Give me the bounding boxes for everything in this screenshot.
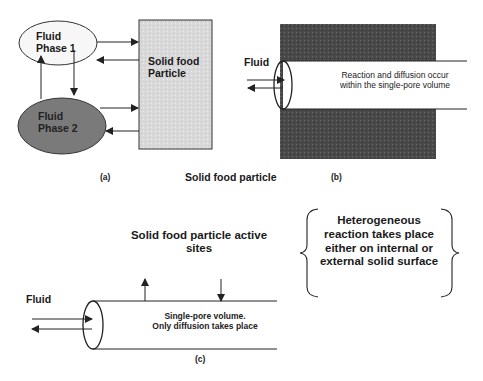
pore-mouth-ellipse-c xyxy=(83,301,103,349)
fluid-label-b: Fluid xyxy=(244,56,269,68)
panel-c-label: (c) xyxy=(195,355,205,365)
solid-particle-label: Solid food Particle xyxy=(148,55,199,79)
pore-text-b: Reaction and diffusion occur within the … xyxy=(325,71,465,91)
solid-particle-box xyxy=(139,20,212,149)
fluid-label-c: Fluid xyxy=(26,293,51,305)
shared-solid-particle-label: Solid food particle xyxy=(185,171,277,183)
pore-text-c: Single-pore volume. Only diffusion takes… xyxy=(135,312,275,332)
fluid-phase-1-label: Fluid Phase 1 xyxy=(36,30,76,54)
active-sites-label: Solid food particle active sites xyxy=(118,229,280,255)
panel-a-label: (a) xyxy=(100,173,110,183)
brace-note: Heterogeneous reaction takes place eithe… xyxy=(312,214,446,269)
fluid-phase-2-label: Fluid Phase 2 xyxy=(38,110,78,134)
panel-b-label: (b) xyxy=(331,173,342,183)
panel-b xyxy=(247,24,468,159)
